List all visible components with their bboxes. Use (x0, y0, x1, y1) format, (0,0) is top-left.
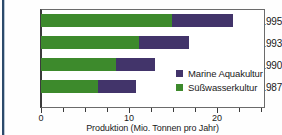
xtick-label-0: 0 (31, 113, 51, 123)
xaxis-ticks: 0 10 20 (0, 0, 282, 135)
xtick-minor-5 (85, 108, 86, 112)
xtick-minor-7p5 (107, 108, 108, 112)
xtick-minor-2p5 (63, 108, 64, 112)
xtick-minor-17p5 (195, 108, 196, 112)
xtick-minor-25 (261, 108, 262, 112)
chart-figure: 1995 1993 1990 1987 Marine Aquakultur Sü… (0, 0, 282, 135)
xtick-label-20: 20 (207, 113, 227, 123)
xtick-label-10: 10 (119, 113, 139, 123)
xtick-minor-22p5 (239, 108, 240, 112)
xtick-minor-12p5 (151, 108, 152, 112)
xaxis-title: Produktion (Mio. Tonnen pro Jahr) (40, 123, 265, 133)
xtick-minor-15 (173, 108, 174, 112)
